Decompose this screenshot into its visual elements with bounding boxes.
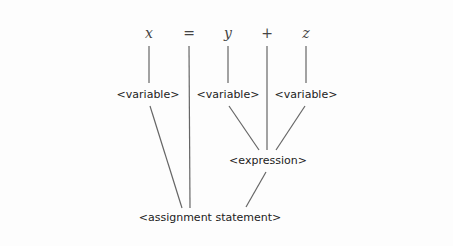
edge-var3-expression — [276, 106, 305, 150]
token-plus: + — [261, 25, 273, 41]
token-equals: = — [183, 25, 195, 41]
edge-expression-root — [246, 172, 266, 207]
node-variable-x: <variable> — [117, 88, 180, 101]
token-z: z — [301, 25, 310, 41]
node-variable-z: <variable> — [275, 88, 338, 101]
parse-tree-diagram: x = y + z <variable> <variable> <variabl… — [0, 0, 453, 246]
node-assignment-statement: <assignment statement> — [139, 211, 282, 224]
edge-var1-root — [150, 106, 182, 208]
node-variable-y: <variable> — [197, 88, 260, 101]
token-y: y — [223, 25, 233, 41]
edge-equals-root — [189, 46, 190, 208]
node-expression: <expression> — [229, 154, 307, 167]
edge-var2-expression — [229, 106, 259, 150]
token-x: x — [145, 25, 153, 41]
parse-tree-canvas: x = y + z <variable> <variable> <variabl… — [0, 0, 453, 246]
